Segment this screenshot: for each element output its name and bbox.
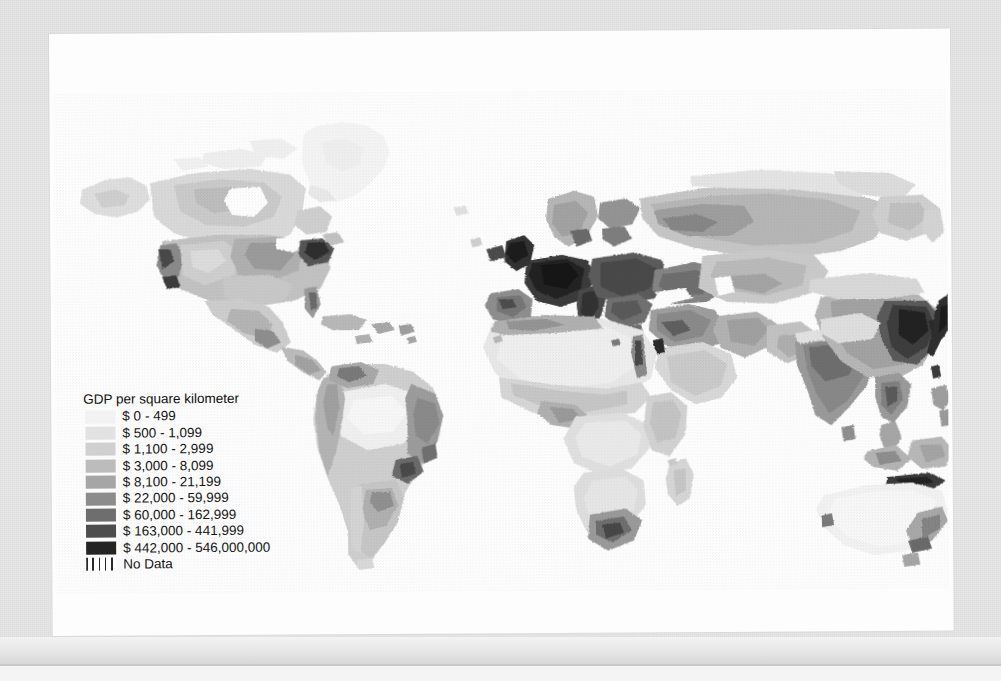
legend-swatch xyxy=(85,410,115,423)
page-gutter-band xyxy=(0,637,1001,667)
legend-title: GDP per square kilometer xyxy=(83,391,269,408)
legend-row: $ 500 - 1,099 xyxy=(83,424,269,442)
legend-row: $ 22,000 - 59,999 xyxy=(84,490,270,508)
legend-row: $ 442,000 - 546,000,000 xyxy=(84,539,270,557)
legend-swatch xyxy=(85,427,115,440)
legend-label: $ 1,100 - 2,999 xyxy=(122,442,213,456)
legend-row: $ 60,000 - 162,999 xyxy=(84,506,270,524)
legend-swatch xyxy=(86,509,116,522)
legend-swatch xyxy=(86,525,116,538)
scanned-page: GDP per square kilometer $ 0 - 499 $ 500… xyxy=(49,28,954,635)
legend-row: $ 8,100 - 21,199 xyxy=(84,473,270,491)
legend-swatch xyxy=(86,459,116,472)
legend-label: $ 8,100 - 21,199 xyxy=(123,475,221,489)
legend-swatch xyxy=(86,443,116,456)
page-gutter-white xyxy=(0,666,1001,681)
legend-row: $ 163,000 - 441,999 xyxy=(84,522,270,540)
legend-label: $ 163,000 - 441,999 xyxy=(123,524,244,538)
legend-row-no-data: No Data xyxy=(84,555,270,573)
legend-row: $ 0 - 499 xyxy=(83,408,269,426)
legend-label: $ 500 - 1,099 xyxy=(122,426,202,440)
legend-label: $ 442,000 - 546,000,000 xyxy=(123,540,270,554)
legend-label: $ 0 - 499 xyxy=(122,410,175,424)
legend-label: $ 60,000 - 162,999 xyxy=(123,508,236,522)
legend-swatch xyxy=(86,476,116,489)
legend-label: $ 3,000 - 8,099 xyxy=(123,459,214,473)
legend-label: $ 22,000 - 59,999 xyxy=(123,491,229,505)
legend-swatch-no-data xyxy=(86,558,116,571)
map-legend: GDP per square kilometer $ 0 - 499 $ 500… xyxy=(83,391,270,573)
legend-swatch xyxy=(86,492,116,505)
legend-swatch xyxy=(86,541,116,554)
legend-label-no-data: No Data xyxy=(123,557,173,571)
legend-row: $ 1,100 - 2,999 xyxy=(83,440,269,458)
legend-row: $ 3,000 - 8,099 xyxy=(84,457,270,475)
